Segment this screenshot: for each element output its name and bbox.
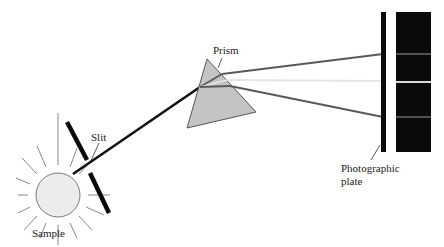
prism <box>187 59 256 128</box>
prism-label: Prism <box>213 44 239 57</box>
photographic-plate <box>381 12 386 152</box>
plate-leader-line <box>371 145 380 160</box>
slit-label: Slit <box>91 131 106 144</box>
prism-leader-line <box>218 58 222 68</box>
ray-upper <box>222 54 383 74</box>
plate-label-line2: plate <box>341 175 362 188</box>
sample-label: Sample <box>32 227 65 240</box>
spectrum-strip <box>396 12 431 152</box>
ray-middle <box>227 80 383 81</box>
spectroscope-diagram <box>0 0 444 247</box>
sample-circle <box>36 173 80 217</box>
plate-label-line1: Photographic <box>341 162 400 175</box>
